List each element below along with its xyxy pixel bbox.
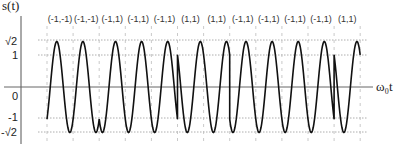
y-tick-sqrt2: √2 — [5, 35, 17, 47]
symbol-label: (-1,1) — [284, 14, 306, 24]
symbol-label: (-1,1) — [154, 14, 176, 24]
modulated-signal-diagram: s(t) ω₀t √2 1 0 -1 -√2 (-1,-1)(-1,-1)(-1… — [0, 0, 397, 144]
symbol-label: (-1,-1) — [48, 14, 73, 24]
y-tick-neg1: -1 — [8, 111, 18, 123]
y-tick-1: 1 — [12, 49, 18, 61]
symbol-label: (1,1) — [338, 14, 357, 24]
symbol-label: (1,1) — [181, 14, 200, 24]
y-tick-0: 0 — [12, 90, 18, 102]
symbol-label: (-1,1) — [128, 14, 150, 24]
symbol-labels: (-1,-1)(-1,-1)(-1,1)(-1,1)(-1,1)(1,1)(1,… — [48, 14, 357, 24]
y-axis-title: s(t) — [2, 0, 19, 13]
symbol-label: (-1,-1) — [74, 14, 99, 24]
y-tick-neg-sqrt2: -√2 — [1, 126, 17, 138]
x-axis-title: ω₀t — [376, 79, 393, 94]
symbol-label: (-1,1) — [232, 14, 254, 24]
symbol-label: (1,1) — [207, 14, 226, 24]
symbol-label: (-1,1) — [258, 14, 280, 24]
symbol-label: (-1,1) — [310, 14, 332, 24]
symbol-label: (-1,1) — [101, 14, 123, 24]
